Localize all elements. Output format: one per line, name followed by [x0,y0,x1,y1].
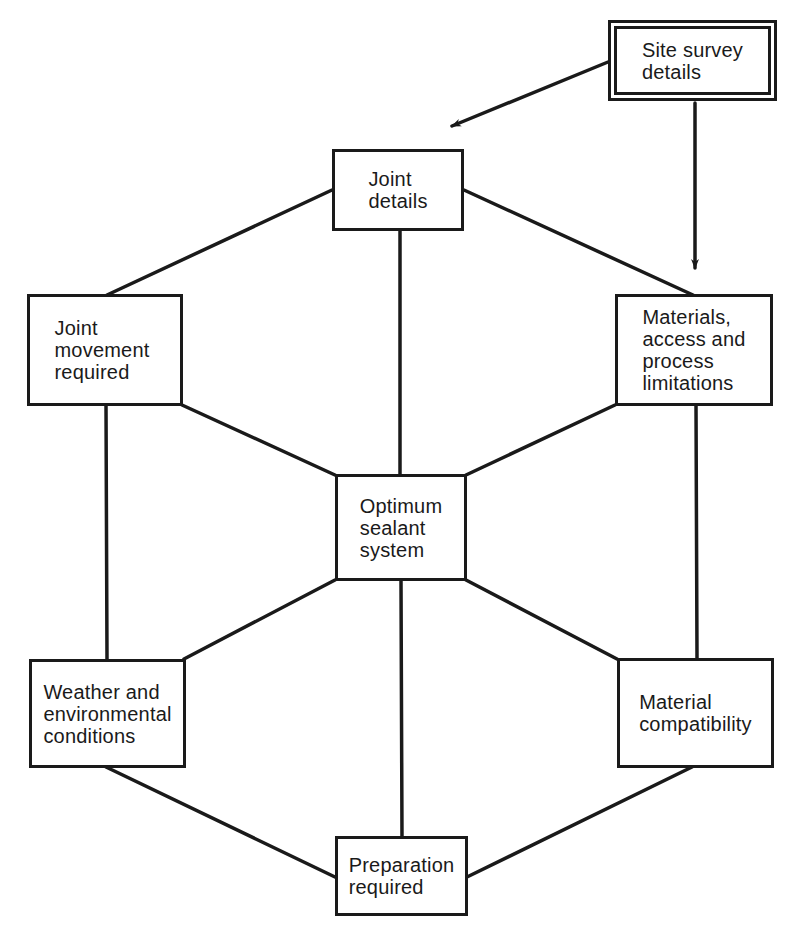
edge-joint-movement-to-weather [106,405,107,659]
edge-site-survey-to-joint-details [452,62,608,126]
node-site-survey-details: Site survey details [608,20,777,101]
diagram-connectors [0,0,802,946]
edge-optimum-to-compatibility [466,580,617,659]
edge-joint-movement-to-optimum [182,405,335,475]
node-site-survey-inner-border: Site survey details [614,26,771,95]
edge-optimum-to-preparation [401,581,402,836]
node-material-compatibility: Material compatibility [617,658,774,768]
node-label: Joint movement required [55,317,150,383]
node-label: Weather and environmental conditions [43,681,171,747]
node-optimum-sealant-system: Optimum sealant system [335,474,467,581]
node-label: Materials, access and process limitation… [642,306,745,394]
edge-optimum-to-weather [184,580,335,659]
node-label: Material compatibility [639,691,752,735]
edge-compatibility-to-preparation [467,767,692,877]
node-joint-details: Joint details [332,149,464,231]
edge-weather-to-preparation [106,767,335,877]
node-materials-access-process-limitations: Materials, access and process limitation… [615,294,773,406]
node-label: Joint details [368,168,427,212]
edge-joint-details-to-materials [464,190,693,295]
edge-materials-to-optimum [466,405,615,475]
edge-materials-to-compatibility [696,405,697,658]
node-weather-environmental-conditions: Weather and environmental conditions [29,659,186,768]
node-label: Site survey details [642,39,743,83]
node-label: Preparation required [349,854,455,898]
edge-joint-details-to-joint-movement [107,190,332,295]
node-label: Optimum sealant system [360,495,443,561]
node-preparation-required: Preparation required [335,836,468,916]
node-joint-movement-required: Joint movement required [27,294,183,406]
